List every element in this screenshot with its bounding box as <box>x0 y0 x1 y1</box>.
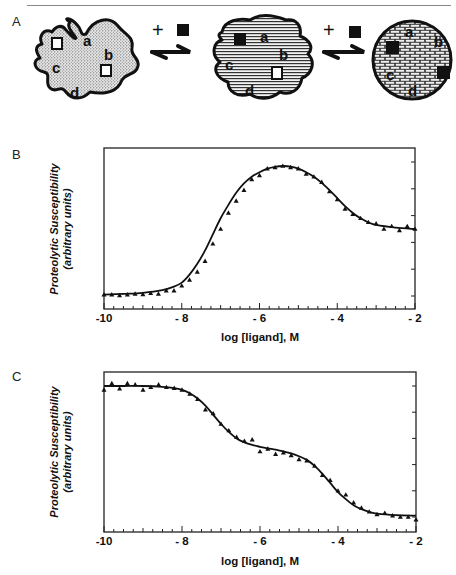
data-point-triangle-icon <box>179 283 184 287</box>
x-tick-label: - 4 <box>318 535 358 547</box>
data-point-triangle-icon <box>406 514 411 518</box>
data-point-triangle-icon <box>374 221 379 225</box>
data-point-triangle-icon <box>211 411 216 415</box>
data-point-triangle-icon <box>336 488 341 492</box>
svg-text:b: b <box>104 46 113 63</box>
data-point-triangle-icon <box>304 171 309 175</box>
data-point-triangle-icon <box>257 173 262 177</box>
data-point-triangle-icon <box>265 446 270 450</box>
data-point-triangle-icon <box>156 382 161 386</box>
data-point-triangle-icon <box>164 385 169 389</box>
data-point-triangle-icon <box>358 216 363 220</box>
ligand-square-icon <box>177 24 189 36</box>
data-point-triangle-icon <box>218 226 223 230</box>
data-point-triangle-icon <box>289 453 294 457</box>
data-point-triangle-icon <box>414 517 419 521</box>
data-point-triangle-icon <box>312 463 317 467</box>
data-point-triangle-icon <box>133 382 138 386</box>
equilibrium-arrow-1: + <box>152 19 192 58</box>
data-point-triangle-icon <box>328 478 333 482</box>
data-point-triangle-icon <box>133 291 138 295</box>
data-point-triangle-icon <box>102 387 107 391</box>
data-point-triangle-icon <box>398 514 403 518</box>
data-point-triangle-icon <box>367 509 372 513</box>
ylabel-sub: (arbitrary units) <box>61 386 74 517</box>
data-point-triangle-icon <box>296 166 301 170</box>
data-point-triangle-icon <box>187 277 192 281</box>
plot-frame <box>104 148 415 309</box>
data-point-triangle-icon <box>203 407 208 411</box>
data-point-triangle-icon <box>109 292 114 296</box>
data-point-triangle-icon <box>187 391 192 395</box>
empty-site-icon <box>101 65 111 76</box>
panel-label-b: B <box>12 147 21 162</box>
data-point-triangle-icon <box>319 180 324 184</box>
svg-text:c: c <box>386 66 394 83</box>
data-point-triangle-icon <box>288 165 293 169</box>
chart-c-ylabel: Proteolytic Susceptibility (arbitrary un… <box>26 372 96 532</box>
data-point-triangle-icon <box>327 189 332 193</box>
equilibrium-arrow-2: + <box>323 19 364 58</box>
svg-text:c: c <box>52 59 60 76</box>
data-point-triangle-icon <box>320 472 325 476</box>
data-point-triangle-icon <box>141 387 146 391</box>
chart-c-xlabel: log [ligand], M <box>104 555 416 567</box>
plot-frame <box>104 372 416 532</box>
data-point-triangle-icon <box>273 452 278 456</box>
data-point-triangle-icon <box>405 224 410 228</box>
data-point-triangle-icon <box>210 241 215 245</box>
data-point-triangle-icon <box>273 165 278 169</box>
x-tick-label: - 8 <box>162 535 202 547</box>
x-tick-label: - 4 <box>317 312 357 324</box>
data-point-triangle-icon <box>297 457 302 461</box>
svg-text:d: d <box>245 82 254 99</box>
data-point-triangle-icon <box>397 228 402 232</box>
data-point-triangle-icon <box>109 381 114 385</box>
state-unliganded: a b c d <box>35 19 138 101</box>
data-point-triangle-icon <box>164 288 169 292</box>
x-tick-label: -10 <box>84 535 124 547</box>
svg-text:b: b <box>279 46 288 63</box>
data-point-triangle-icon <box>219 421 224 425</box>
data-point-triangle-icon <box>180 387 185 391</box>
data-point-triangle-icon <box>281 450 286 454</box>
data-point-triangle-icon <box>280 163 285 167</box>
x-tick-label: -10 <box>84 312 124 324</box>
svg-text:b: b <box>434 33 443 50</box>
chart-b-ylabel: Proteolytic Susceptibility (arbitrary un… <box>26 148 96 310</box>
chart-b-xlabel: log [ligand], M <box>104 331 416 343</box>
data-point-triangle-icon <box>140 292 145 296</box>
data-point-triangle-icon <box>335 197 340 201</box>
data-point-triangle-icon <box>366 220 371 224</box>
ylabel-sub: (arbitrary units) <box>61 163 74 294</box>
ylabel-main: Proteolytic Susceptibility <box>48 386 61 517</box>
data-point-triangle-icon <box>171 288 176 292</box>
panel-a-schematic: a b c d + a b c d + a b c d <box>0 0 456 110</box>
data-point-triangle-icon <box>226 210 231 214</box>
data-point-triangle-icon <box>125 381 130 385</box>
data-point-triangle-icon <box>343 492 348 496</box>
protein-shape-1 <box>35 19 138 98</box>
data-point-triangle-icon <box>258 449 263 453</box>
data-point-triangle-icon <box>102 292 107 296</box>
ylabel-main: Proteolytic Susceptibility <box>48 163 61 294</box>
data-point-triangle-icon <box>375 512 380 516</box>
data-point-triangle-icon <box>203 259 208 263</box>
panel-label-c: C <box>12 369 21 384</box>
data-point-triangle-icon <box>350 212 355 216</box>
state-partially-liganded: a b c d <box>214 15 312 99</box>
data-point-triangle-icon <box>382 510 387 514</box>
data-point-triangle-icon <box>195 397 200 401</box>
svg-text:c: c <box>225 56 233 73</box>
data-point-triangle-icon <box>117 293 122 297</box>
svg-text:+: + <box>152 19 164 41</box>
empty-site-icon <box>52 38 62 49</box>
data-point-triangle-icon <box>148 385 153 389</box>
data-point-triangle-icon <box>156 291 161 295</box>
data-point-triangle-icon <box>125 292 130 296</box>
fit-curve <box>104 386 416 516</box>
svg-text:a: a <box>83 32 92 49</box>
data-point-triangle-icon <box>359 505 364 509</box>
data-point-triangle-icon <box>311 174 316 178</box>
data-point-triangle-icon <box>172 385 177 389</box>
